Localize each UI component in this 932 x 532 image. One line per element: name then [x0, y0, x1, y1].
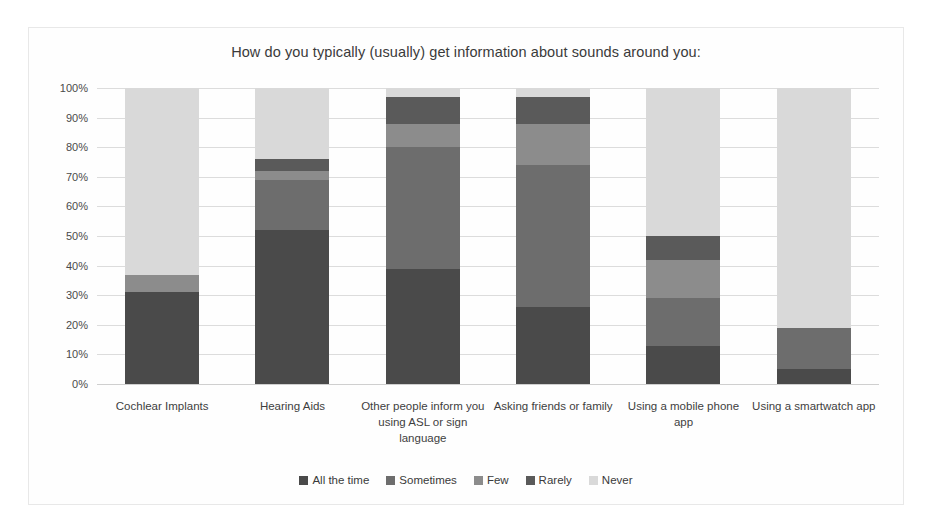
bar-segment[interactable]	[255, 180, 329, 230]
gridline	[97, 384, 879, 385]
stacked-bar[interactable]	[516, 88, 590, 384]
bar-segment[interactable]	[255, 171, 329, 180]
bar-segment[interactable]	[646, 236, 720, 260]
x-axis-category-label: Cochlear Implants	[97, 398, 227, 414]
bar-segment[interactable]	[516, 165, 590, 307]
legend-label: Sometimes	[399, 474, 457, 486]
x-axis-category-label: Hearing Aids	[227, 398, 357, 414]
legend-item[interactable]: All the time	[299, 474, 369, 486]
bar-segment[interactable]	[516, 307, 590, 384]
y-axis-tick-label: 20%	[66, 319, 88, 331]
y-axis-tick-label: 60%	[66, 200, 88, 212]
y-axis-tick-label: 100%	[60, 82, 88, 94]
stacked-bar[interactable]	[386, 88, 460, 384]
legend-swatch-icon	[526, 476, 535, 485]
legend-swatch-icon	[589, 476, 598, 485]
bar-segment[interactable]	[646, 298, 720, 345]
bar-slot: Cochlear Implants	[97, 88, 227, 384]
legend-label: Rarely	[539, 474, 572, 486]
y-axis-tick-label: 80%	[66, 141, 88, 153]
stacked-bar[interactable]	[646, 88, 720, 384]
legend-label: All the time	[312, 474, 369, 486]
y-axis-tick-label: 0%	[72, 378, 88, 390]
bar-segment[interactable]	[386, 269, 460, 384]
bar-segment[interactable]	[386, 124, 460, 148]
chart-container: How do you typically (usually) get infor…	[28, 27, 904, 505]
legend-item[interactable]: Few	[474, 474, 509, 486]
bar-segment[interactable]	[646, 260, 720, 298]
stacked-bar[interactable]	[125, 88, 199, 384]
bar-slot: Other people inform you using ASL or sig…	[358, 88, 488, 384]
legend-label: Few	[487, 474, 509, 486]
y-axis-tick-label: 50%	[66, 230, 88, 242]
legend-item[interactable]: Rarely	[526, 474, 572, 486]
bar-segment[interactable]	[125, 292, 199, 384]
x-axis-category-label: Asking friends or family	[488, 398, 618, 414]
bar-segment[interactable]	[386, 88, 460, 97]
y-axis-tick-label: 90%	[66, 112, 88, 124]
bar-segment[interactable]	[516, 124, 590, 165]
bar-segment[interactable]	[386, 97, 460, 124]
legend-swatch-icon	[299, 476, 308, 485]
x-axis-category-label: Other people inform you using ASL or sig…	[358, 398, 488, 446]
stacked-bar[interactable]	[777, 88, 851, 384]
x-axis-category-label: Using a mobile phone app	[618, 398, 748, 430]
y-axis-tick-label: 40%	[66, 260, 88, 272]
y-axis-tick-label: 10%	[66, 348, 88, 360]
stacked-bar[interactable]	[255, 88, 329, 384]
chart-legend: All the timeSometimesFewRarelyNever	[29, 474, 903, 486]
bar-segment[interactable]	[386, 147, 460, 268]
bar-segment[interactable]	[646, 346, 720, 384]
y-axis-tick-label: 70%	[66, 171, 88, 183]
legend-item[interactable]: Never	[589, 474, 633, 486]
bar-segment[interactable]	[125, 88, 199, 274]
bar-segment[interactable]	[255, 230, 329, 384]
y-axis-tick-label: 30%	[66, 289, 88, 301]
bar-segment[interactable]	[646, 88, 720, 236]
bar-slot: Using a smartwatch app	[749, 88, 879, 384]
bar-segment[interactable]	[777, 88, 851, 328]
legend-swatch-icon	[474, 476, 483, 485]
plot-area: 100%90%80%70%60%50%40%30%20%10%0% Cochle…	[97, 88, 879, 384]
legend-swatch-icon	[386, 476, 395, 485]
bar-segment[interactable]	[777, 328, 851, 369]
legend-label: Never	[602, 474, 633, 486]
bar-segment[interactable]	[125, 275, 199, 293]
bar-segment[interactable]	[255, 88, 329, 159]
bar-segment[interactable]	[255, 159, 329, 171]
bar-slot: Hearing Aids	[227, 88, 357, 384]
legend-item[interactable]: Sometimes	[386, 474, 457, 486]
bar-segment[interactable]	[516, 88, 590, 97]
bar-slot: Asking friends or family	[488, 88, 618, 384]
bar-group: Cochlear ImplantsHearing AidsOther peopl…	[97, 88, 879, 384]
bar-slot: Using a mobile phone app	[618, 88, 748, 384]
chart-title: How do you typically (usually) get infor…	[29, 44, 903, 60]
x-axis-category-label: Using a smartwatch app	[749, 398, 879, 414]
bar-segment[interactable]	[777, 369, 851, 384]
bar-segment[interactable]	[516, 97, 590, 124]
